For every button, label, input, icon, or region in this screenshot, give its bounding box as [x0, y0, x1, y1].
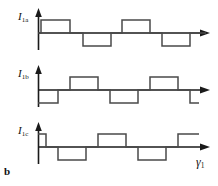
y-axis-arrow-I1c [35, 122, 42, 131]
plot-I1a [35, 8, 210, 50]
signal-label-I1a: I1a [18, 11, 28, 24]
signal-label-I1c: I1c [18, 125, 28, 138]
waveform-plot-group [0, 0, 218, 186]
x-axis-label-subscript: 1 [201, 161, 205, 170]
figure-caption: b [4, 166, 10, 177]
y-axis-arrow-I1b [35, 65, 42, 74]
signal-label-I1b-subscript: 1b [22, 73, 29, 81]
y-axis-arrow-I1a [35, 8, 42, 17]
plot-I1c [35, 122, 210, 164]
signal-label-I1c-subscript: 1c [22, 130, 29, 138]
signal-label-I1a-subscript: 1a [22, 16, 29, 24]
x-axis-arrow-I1b [200, 86, 210, 93]
signal-label-I1b: I1b [18, 68, 29, 81]
figure-container: I1a I1b I1c γ1 b [0, 0, 218, 186]
x-axis-arrow-I1c [200, 143, 210, 150]
x-axis-label-gamma1: γ1 [196, 156, 204, 169]
plot-I1b [35, 65, 210, 107]
